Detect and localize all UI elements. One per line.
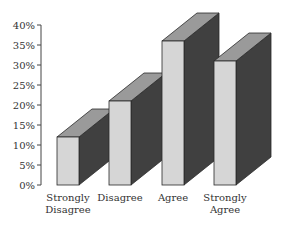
- y-tick-label: 30%: [13, 60, 35, 71]
- y-tick-label: 10%: [13, 140, 35, 151]
- y-tick-label: 25%: [13, 80, 35, 91]
- y-tick-label: 35%: [13, 40, 35, 51]
- bars: [57, 13, 271, 185]
- bar-strongly-agree: [214, 33, 271, 185]
- x-category-label: StronglyAgree: [195, 192, 255, 216]
- bar-strongly-disagree: [57, 109, 114, 185]
- y-tick-label: 40%: [13, 20, 35, 31]
- bar-agree: [162, 13, 219, 185]
- x-category-label: Disagree: [90, 192, 150, 204]
- x-category-label: Agree: [143, 192, 203, 204]
- bar-disagree: [109, 73, 166, 185]
- y-tick-label: 5%: [19, 160, 35, 171]
- y-tick-label: 15%: [13, 120, 35, 131]
- y-axis: 0%5%10%15%20%25%30%35%40%: [13, 20, 41, 191]
- x-category-label: StronglyDisagree: [38, 192, 98, 216]
- y-tick-label: 0%: [19, 180, 35, 191]
- y-tick-label: 20%: [13, 100, 35, 111]
